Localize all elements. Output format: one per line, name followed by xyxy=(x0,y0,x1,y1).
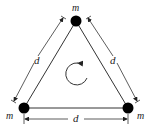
mass-top xyxy=(71,16,82,27)
rotation-arrow-icon xyxy=(66,63,87,85)
left-edge xyxy=(24,21,76,108)
right-edge xyxy=(76,21,128,108)
side-label-right: d xyxy=(110,54,116,66)
mass-bottom-left xyxy=(19,103,30,114)
mass-label-top: m xyxy=(72,2,79,13)
side-label-bottom: d xyxy=(73,112,79,124)
side-label-left: d xyxy=(34,54,40,66)
triangle-masses-diagram: m m m d d d xyxy=(0,0,151,129)
mass-label-bottom-right: m xyxy=(137,110,144,121)
mass-bottom-right xyxy=(123,103,134,114)
mass-label-bottom-left: m xyxy=(6,110,13,121)
